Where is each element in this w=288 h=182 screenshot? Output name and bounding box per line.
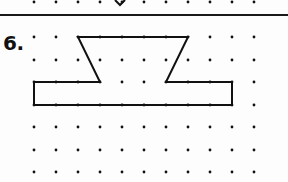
grid-dot <box>187 36 190 39</box>
grid-dot <box>33 171 36 174</box>
grid-dot <box>33 126 36 129</box>
grid-dot <box>99 171 102 174</box>
grid-dot <box>33 1 36 4</box>
grid-dot <box>143 59 146 62</box>
grid-dot <box>55 81 58 84</box>
grid-dot <box>55 36 58 39</box>
grid-dot <box>99 126 102 129</box>
grid-dot <box>99 36 102 39</box>
grid-dot <box>77 104 80 107</box>
worksheet-page: 6. <box>0 0 288 182</box>
grid-dot <box>165 126 168 129</box>
grid-dot <box>99 149 102 152</box>
grid-dot <box>231 149 234 152</box>
grid-dot <box>209 104 212 107</box>
grid-dot <box>253 149 256 152</box>
grid-dot <box>143 171 146 174</box>
grid-dot <box>77 81 80 84</box>
grid-dot <box>253 59 256 62</box>
grid-dot <box>209 149 212 152</box>
grid-dot <box>121 104 124 107</box>
grid-dot <box>121 126 124 129</box>
grid-dot <box>165 81 168 84</box>
grid-dot <box>77 171 80 174</box>
grid-dot <box>209 1 212 4</box>
grid-dot <box>99 81 102 84</box>
grid-dot <box>33 104 36 107</box>
grid-dot <box>209 36 212 39</box>
grid-dot <box>231 1 234 4</box>
grid-dot <box>33 149 36 152</box>
grid-dot <box>187 171 190 174</box>
grid-dot <box>253 126 256 129</box>
grid-dot <box>55 104 58 107</box>
grid-dot <box>33 59 36 62</box>
grid-dot <box>231 126 234 129</box>
grid-dot <box>253 171 256 174</box>
grid-dot <box>253 81 256 84</box>
grid-dot <box>121 171 124 174</box>
grid-dot <box>165 36 168 39</box>
dot-grid <box>0 0 288 182</box>
grid-dot <box>33 36 36 39</box>
grid-dot <box>77 1 80 4</box>
grid-dot <box>209 81 212 84</box>
grid-dot <box>121 59 124 62</box>
grid-dot <box>187 59 190 62</box>
grid-dot <box>253 1 256 4</box>
figure-polygon <box>34 37 232 105</box>
grid-dot <box>55 171 58 174</box>
grid-dot <box>99 59 102 62</box>
grid-dot <box>77 149 80 152</box>
grid-dot <box>231 171 234 174</box>
grid-dot <box>187 149 190 152</box>
grid-dot <box>187 81 190 84</box>
grid-dot <box>77 36 80 39</box>
grid-dot <box>121 36 124 39</box>
grid-dot <box>209 59 212 62</box>
grid-dot <box>231 104 234 107</box>
grid-dot <box>187 1 190 4</box>
grid-dot <box>165 59 168 62</box>
grid-dot <box>77 126 80 129</box>
grid-dot <box>33 81 36 84</box>
grid-dot <box>143 81 146 84</box>
grid-dot <box>55 1 58 4</box>
grid-dot <box>121 149 124 152</box>
grid-dot <box>143 36 146 39</box>
grid-dot <box>143 126 146 129</box>
grid-dot <box>209 171 212 174</box>
grid-dot <box>143 149 146 152</box>
grid-dot <box>209 126 212 129</box>
previous-problem-dots <box>33 1 256 4</box>
grid-dot <box>253 104 256 107</box>
grid-dot <box>165 104 168 107</box>
grid-dot <box>143 104 146 107</box>
grid-dot <box>143 1 146 4</box>
grid-dot <box>187 104 190 107</box>
grid-dot <box>55 59 58 62</box>
grid-dot <box>165 149 168 152</box>
grid-dot <box>187 126 190 129</box>
grid-dot <box>55 149 58 152</box>
grid-dot <box>253 36 256 39</box>
grid-dot <box>99 1 102 4</box>
grid-dot <box>55 126 58 129</box>
grid-dot <box>165 171 168 174</box>
grid-dot <box>231 81 234 84</box>
previous-figure-fragment <box>115 0 125 5</box>
grid-dot <box>231 36 234 39</box>
grid-dot <box>231 59 234 62</box>
grid-dot <box>77 59 80 62</box>
grid-dot <box>121 81 124 84</box>
grid-dot <box>99 104 102 107</box>
grid-dot <box>165 1 168 4</box>
